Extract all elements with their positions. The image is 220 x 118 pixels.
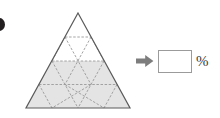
- percent-symbol: %: [196, 54, 209, 69]
- answer-input[interactable]: [158, 50, 192, 73]
- worksheet-figure-panel: %: [0, 0, 220, 118]
- right-arrow-icon: [136, 53, 154, 69]
- answer-row: %: [136, 44, 218, 78]
